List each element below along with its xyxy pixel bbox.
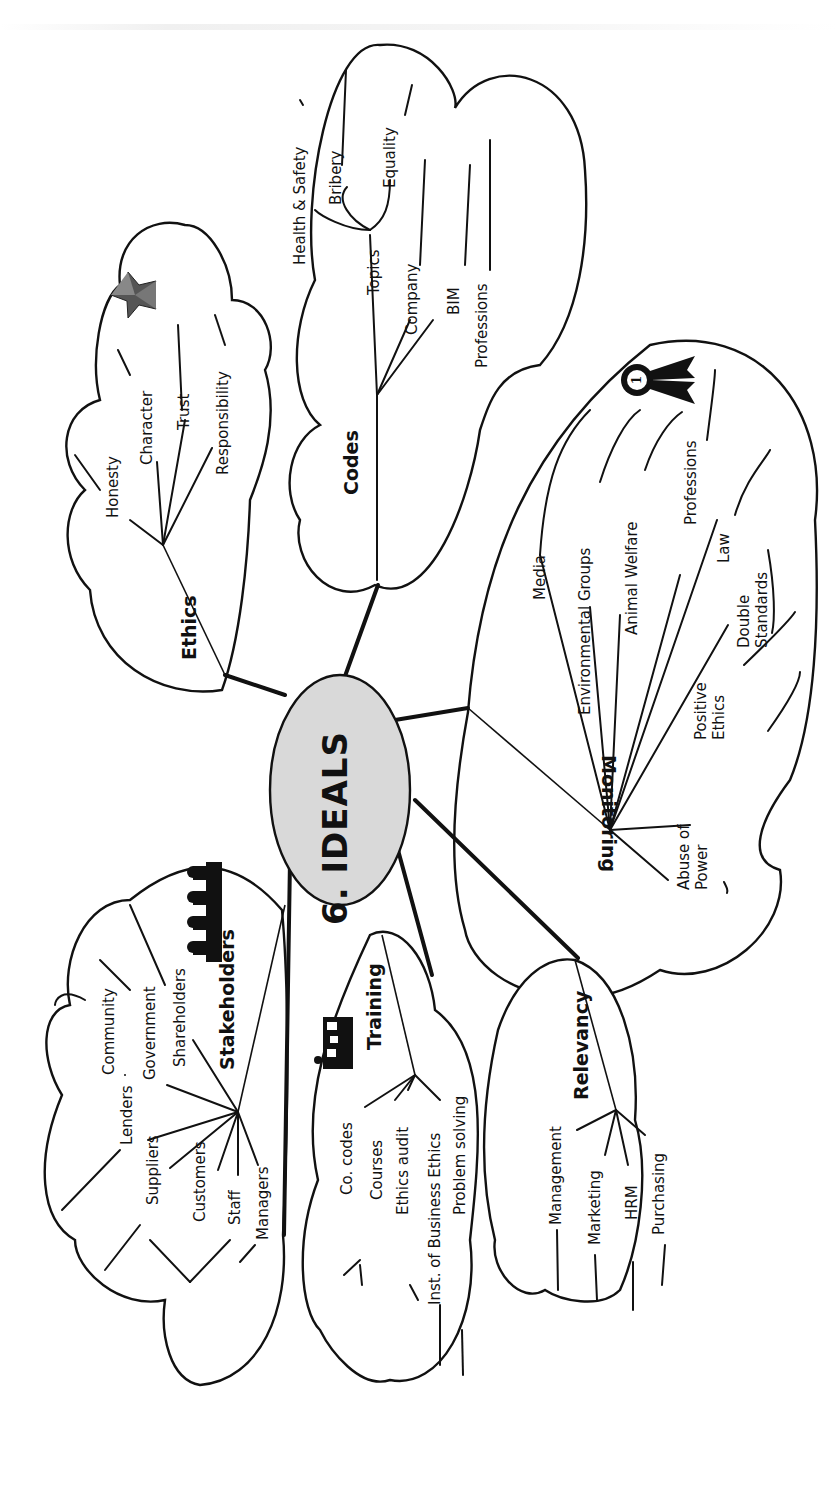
- double-standards-text: Double Standards: [735, 593, 771, 648]
- monitoring-item-law: Law: [717, 533, 732, 563]
- ethics-item-character: Character: [140, 391, 155, 465]
- branch-label-relevancy: Relevancy: [572, 991, 591, 1100]
- monitoring-item-environmental-groups: Environmental Groups: [578, 548, 593, 715]
- stakeholders-item-suppliers: Suppliers: [146, 1135, 161, 1205]
- stakeholders-item-government: Government: [143, 986, 158, 1080]
- codes-item-topics: Topics: [367, 249, 382, 295]
- ethics-cloud: [66, 223, 270, 692]
- training-item-courses: Courses: [370, 1140, 385, 1200]
- stakeholders-cloud: [45, 868, 288, 1386]
- branch-label-monitoring: Monitoring: [599, 755, 618, 872]
- relevancy-item-purchasing: Purchasing: [652, 1153, 667, 1235]
- stakeholders-item-customers: Customers: [193, 1141, 208, 1222]
- codes-item-company: Company: [405, 264, 420, 335]
- monitoring-item-positive-ethics: Positive Ethics: [692, 682, 728, 740]
- branch-label-training: Training: [365, 963, 384, 1050]
- stakeholders-item-managers: Managers: [256, 1166, 271, 1240]
- monitoring-item-animal-welfare: Animal Welfare: [625, 521, 640, 635]
- relevancy-item-hrm: HRM: [625, 1185, 640, 1220]
- ethics-item-responsibility: Responsibility: [216, 371, 231, 475]
- training-item-co-codes: Co. codes: [340, 1122, 355, 1195]
- stakeholders-item-community: Community: [102, 988, 117, 1075]
- codes-item-bim: BIM: [447, 287, 462, 315]
- branch-label-codes: Codes: [342, 430, 361, 495]
- monitoring-item-media: Media: [533, 555, 548, 600]
- relevancy-item-marketing: Marketing: [588, 1170, 603, 1245]
- stakeholders-item-staff: Staff: [228, 1190, 243, 1225]
- stakeholders-item-shareholders: Shareholders: [173, 968, 188, 1067]
- branch-label-ethics: Ethics: [180, 595, 199, 660]
- monitoring-cloud: [454, 341, 817, 996]
- positive-ethics-text: Positive Ethics: [692, 682, 728, 740]
- monitoring-item-abuse-of-power: Abuse of Power: [675, 822, 711, 890]
- training-item-inst-business-ethics: Inst. of Business Ethics: [428, 1133, 443, 1305]
- monitoring-item-double-standards: Double Standards: [735, 593, 771, 648]
- codes-topic-equality: Equality: [383, 127, 398, 188]
- stakeholders-item-lenders: Lenders: [120, 1085, 135, 1145]
- codes-item-professions: Professions: [475, 283, 490, 368]
- abuse-of-power-text: Abuse of Power: [675, 822, 711, 890]
- branch-label-stakeholders: Stakeholders: [218, 929, 237, 1070]
- branch-monitoring: [395, 708, 468, 720]
- rosette-number: 1: [630, 376, 644, 384]
- ethics-item-trust: Trust: [177, 394, 192, 430]
- training-item-problem-solving: Problem solving: [453, 1096, 468, 1215]
- codes-topic-health-safety: Health & Safety: [293, 147, 308, 265]
- branch-ethics: [225, 675, 285, 695]
- monitoring-item-professions: Professions: [684, 440, 699, 525]
- ethics-item-honesty: Honesty: [106, 456, 121, 518]
- training-item-ethics-audit: Ethics audit: [396, 1127, 411, 1215]
- center-title: 6. IDEALS: [318, 731, 352, 925]
- mind-map: 1: [0, 0, 837, 1504]
- classroom-icon: [314, 1017, 353, 1069]
- relevancy-item-management: Management: [549, 1126, 564, 1225]
- codes-topic-bribery: Bribery: [329, 151, 344, 205]
